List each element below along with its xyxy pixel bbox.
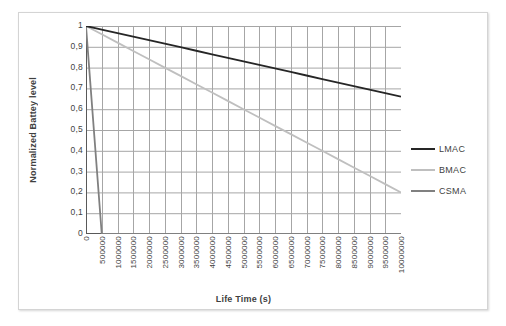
y-axis-title-label: Normalized Battey level [28, 77, 38, 183]
x-axis-tick-label: 5500000 [255, 236, 264, 269]
legend-swatch-csma [411, 190, 435, 192]
y-axis-tick-label: 0 [49, 229, 83, 238]
y-axis-tick-label: 0,2 [49, 187, 83, 196]
x-axis-tick-label: 8000000 [334, 236, 343, 269]
chart-container[interactable]: Normalized Battey level 10,90,80,70,60,5… [18, 12, 488, 310]
x-axis-tick-label: 9000000 [366, 236, 375, 269]
y-axis-tick-label: 0,7 [49, 83, 83, 92]
x-axis-tick-label: 2000000 [145, 236, 154, 269]
x-axis-tick-label: 3000000 [177, 236, 186, 269]
y-axis-tick-label: 0,6 [49, 104, 83, 113]
x-axis-tick-label: 1000000 [114, 236, 123, 269]
x-axis-tick-label: 7000000 [303, 236, 312, 269]
x-axis-tick-label: 8500000 [350, 236, 359, 269]
legend-item-bmac[interactable]: BMAC [411, 159, 485, 180]
y-axis-tick-labels: 10,90,80,70,60,50,40,30,20,10 [45, 26, 83, 234]
chart-plot-svg [86, 26, 401, 234]
legend-item-lmac[interactable]: LMAC [411, 138, 485, 159]
x-axis-tick-label: 4500000 [224, 236, 233, 269]
y-axis-tick-label: 0,8 [49, 63, 83, 72]
legend-label: CSMA [439, 186, 466, 196]
x-axis-tick-label: 6000000 [271, 236, 280, 269]
x-axis-tick-label: 7500000 [318, 236, 327, 269]
y-axis-tick-label: 0,1 [49, 208, 83, 217]
legend-swatch-lmac [411, 148, 435, 150]
y-axis-tick-label: 0,4 [49, 146, 83, 155]
legend-label: BMAC [439, 165, 466, 175]
x-axis-title: Life Time (s) [86, 294, 401, 304]
x-axis-tick-label: 3500000 [192, 236, 201, 269]
legend-swatch-bmac [411, 169, 435, 171]
y-axis-tick-label: 0,9 [49, 42, 83, 51]
y-axis-tick-label: 0,3 [49, 167, 83, 176]
plot-area[interactable] [86, 26, 401, 234]
x-axis-tick-labels: 0500000100000015000002000000250000030000… [86, 236, 401, 294]
legend-item-csma[interactable]: CSMA [411, 180, 485, 201]
x-axis-tick-label: 10000000 [397, 236, 406, 273]
x-axis-tick-label: 9500000 [381, 236, 390, 269]
chart-legend: LMACBMACCSMA [411, 138, 485, 201]
x-axis-tick-label: 6500000 [287, 236, 296, 269]
x-axis-tick-label: 1500000 [129, 236, 138, 269]
x-axis-tick-label: 500000 [98, 236, 107, 264]
y-axis-tick-label: 0,5 [49, 125, 83, 134]
y-axis-title: Normalized Battey level [25, 26, 41, 234]
legend-label: LMAC [439, 144, 465, 154]
x-axis-tick-label: 4000000 [208, 236, 217, 269]
x-axis-tick-label: 5000000 [240, 236, 249, 269]
x-axis-tick-label: 0 [82, 236, 91, 241]
x-axis-tick-label: 2500000 [161, 236, 170, 269]
y-axis-tick-label: 1 [49, 21, 83, 30]
